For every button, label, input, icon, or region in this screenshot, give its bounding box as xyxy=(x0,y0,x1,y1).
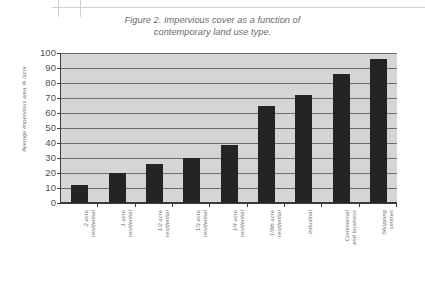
y-tick-label-20: 20 xyxy=(30,168,56,178)
x-axis-label: 1/8th acreresidential xyxy=(269,210,282,280)
x-label-line: centres xyxy=(388,210,395,280)
x-tick-mark xyxy=(172,203,173,207)
bar xyxy=(258,106,275,204)
y-tick-label-60: 60 xyxy=(30,108,56,118)
x-tick-mark xyxy=(209,203,210,207)
figure-caption-line-1: Figure 2. Impervious cover as a function… xyxy=(0,15,425,27)
scan-horizontal-rule xyxy=(52,7,425,8)
y-tick-mark-100 xyxy=(57,53,61,54)
bar xyxy=(370,59,387,203)
y-axis-tick-labels: 0102030405060708090100 xyxy=(30,49,56,207)
x-label-line: and business xyxy=(351,210,358,280)
bar xyxy=(71,185,88,203)
x-label-line: residential xyxy=(276,210,283,280)
y-tick-mark-80 xyxy=(57,83,61,84)
x-label-line: 2 acre xyxy=(83,210,90,280)
x-tick-mark xyxy=(247,203,248,207)
x-tick-mark xyxy=(321,203,322,207)
figure-caption-line-2: contemporary land use type. xyxy=(0,27,425,39)
bar xyxy=(109,173,126,203)
x-tick-mark xyxy=(396,203,397,207)
x-label-line: residential xyxy=(239,210,246,280)
y-tick-label-30: 30 xyxy=(30,153,56,163)
y-tick-label-80: 80 xyxy=(30,78,56,88)
x-label-line: residential xyxy=(164,210,171,280)
y-tick-mark-70 xyxy=(57,98,61,99)
y-axis-title: Average impervious area % /acre xyxy=(21,39,27,179)
y-tick-mark-30 xyxy=(57,158,61,159)
bar-series xyxy=(61,53,397,203)
plot-area xyxy=(60,53,397,203)
y-tick-mark-60 xyxy=(57,113,61,114)
y-tick-mark-20 xyxy=(57,173,61,174)
y-tick-mark-90 xyxy=(57,68,61,69)
x-axis-label: 1 acreresidential xyxy=(120,210,133,280)
y-tick-label-50: 50 xyxy=(30,123,56,133)
figure-caption: Figure 2. Impervious cover as a function… xyxy=(0,15,425,38)
x-tick-mark xyxy=(359,203,360,207)
y-tick-label-40: 40 xyxy=(30,138,56,148)
x-axis-label: Shoppingcentres xyxy=(381,210,394,280)
bar-chart: Average impervious area % /acre 01020304… xyxy=(0,46,425,282)
x-axis-label: Commercialand business xyxy=(344,210,357,280)
bar xyxy=(221,145,238,204)
x-label-line: Industrial xyxy=(307,210,314,280)
y-tick-label-70: 70 xyxy=(30,93,56,103)
x-axis-category-labels: 2 acreresidential1 acreresidential1/2 ac… xyxy=(60,210,396,282)
bar xyxy=(183,158,200,203)
x-tick-mark xyxy=(135,203,136,207)
y-tick-label-10: 10 xyxy=(30,183,56,193)
bar xyxy=(333,74,350,203)
y-tick-label-100: 100 xyxy=(30,48,56,58)
y-tick-mark-50 xyxy=(57,128,61,129)
x-axis-line xyxy=(60,203,396,204)
x-label-line: 1 acre xyxy=(120,210,127,280)
x-axis-label: Industrial xyxy=(307,210,314,280)
y-tick-mark-10 xyxy=(57,188,61,189)
x-axis-label: 1/2 acreresidential xyxy=(157,210,170,280)
bar xyxy=(295,95,312,203)
y-tick-label-0: 0 xyxy=(30,198,56,208)
y-tick-label-90: 90 xyxy=(30,63,56,73)
bar xyxy=(146,164,163,203)
x-label-line: residential xyxy=(201,210,208,280)
x-label-line: 1/3 acre xyxy=(195,210,202,280)
x-axis-label: 1/3 acreresidential xyxy=(195,210,208,280)
x-axis-label: 2 acreresidential xyxy=(83,210,96,280)
x-tick-mark xyxy=(284,203,285,207)
y-tick-mark-40 xyxy=(57,143,61,144)
x-label-line: Commercial xyxy=(344,210,351,280)
x-label-line: residential xyxy=(127,210,134,280)
x-label-line: residential xyxy=(89,210,96,280)
x-label-line: 1/4 acre xyxy=(232,210,239,280)
x-tick-mark xyxy=(97,203,98,207)
x-axis-label: 1/4 acreresidential xyxy=(232,210,245,280)
